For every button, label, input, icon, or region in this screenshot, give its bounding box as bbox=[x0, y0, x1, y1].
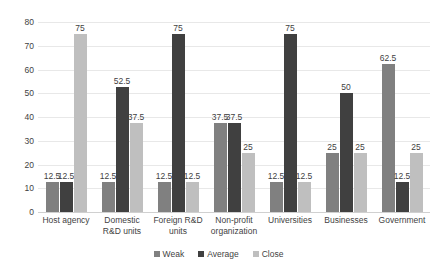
bar-close[interactable]: 25 bbox=[410, 153, 423, 212]
bar-group: 255025 bbox=[318, 22, 374, 212]
bar-value-label: 12.5 bbox=[296, 171, 313, 182]
bar-slot: 25 bbox=[354, 22, 367, 212]
bar-slot: 37.5 bbox=[228, 22, 241, 212]
bar-slot: 50 bbox=[340, 22, 353, 212]
bar-value-label: 50 bbox=[341, 82, 350, 93]
bar-group: 62.512.525 bbox=[374, 22, 430, 212]
bar-close[interactable]: 25 bbox=[354, 153, 367, 212]
bar-value-label: 25 bbox=[411, 142, 420, 153]
bar-weak[interactable]: 25 bbox=[326, 153, 339, 212]
y-tick-label-70: 70 bbox=[4, 41, 34, 51]
bar-group: 12.512.575 bbox=[38, 22, 94, 212]
bar-slot: 12.5 bbox=[158, 22, 171, 212]
bar-slot: 37.5 bbox=[214, 22, 227, 212]
bar-chart: 01020304050607080 12.512.57512.552.537.5… bbox=[0, 0, 437, 269]
x-tick-label: Universities bbox=[262, 215, 318, 237]
bar-groups: 12.512.57512.552.537.512.57512.537.537.5… bbox=[38, 22, 430, 212]
bar-average[interactable]: 37.5 bbox=[228, 123, 241, 212]
bar-average[interactable]: 52.5 bbox=[116, 87, 129, 212]
x-tick-label: Domestic R&D units bbox=[94, 215, 150, 237]
legend-label: Weak bbox=[163, 249, 185, 259]
y-axis: 01020304050607080 bbox=[0, 22, 34, 212]
legend-label: Average bbox=[207, 249, 239, 259]
legend-label: Close bbox=[262, 249, 284, 259]
bar-value-label: 12.5 bbox=[156, 171, 173, 182]
y-tick-label-30: 30 bbox=[4, 136, 34, 146]
bar-value-label: 52.5 bbox=[114, 76, 131, 87]
y-tick-label-0: 0 bbox=[4, 207, 34, 217]
bar-average[interactable]: 75 bbox=[172, 34, 185, 212]
chart-legend: WeakAverageClose bbox=[0, 249, 437, 259]
bar-value-label: 37.5 bbox=[128, 112, 145, 123]
bar-average[interactable]: 75 bbox=[284, 34, 297, 212]
y-tick-label-60: 60 bbox=[4, 65, 34, 75]
legend-swatch-icon bbox=[154, 251, 160, 257]
legend-item-close[interactable]: Close bbox=[253, 249, 284, 259]
bar-group: 37.537.525 bbox=[206, 22, 262, 212]
x-tick-label: Non-profit organization bbox=[206, 215, 262, 237]
gridline-0 bbox=[38, 212, 430, 213]
bar-close[interactable]: 37.5 bbox=[130, 123, 143, 212]
bar-slot: 25 bbox=[326, 22, 339, 212]
bar-close[interactable]: 12.5 bbox=[298, 182, 311, 212]
bar-slot: 12.5 bbox=[298, 22, 311, 212]
y-tick-label-20: 20 bbox=[4, 160, 34, 170]
bar-value-label: 25 bbox=[243, 142, 252, 153]
bar-slot: 75 bbox=[74, 22, 87, 212]
bar-close[interactable]: 25 bbox=[242, 153, 255, 212]
y-tick-label-10: 10 bbox=[4, 183, 34, 193]
y-tick-label-50: 50 bbox=[4, 88, 34, 98]
y-tick-label-40: 40 bbox=[4, 112, 34, 122]
bar-slot: 12.5 bbox=[46, 22, 59, 212]
bar-slot: 37.5 bbox=[130, 22, 143, 212]
bar-value-label: 75 bbox=[75, 23, 84, 34]
bar-close[interactable]: 75 bbox=[74, 34, 87, 212]
bar-value-label: 12.5 bbox=[100, 171, 117, 182]
legend-item-weak[interactable]: Weak bbox=[154, 249, 185, 259]
bar-weak[interactable]: 12.5 bbox=[270, 182, 283, 212]
x-tick-label: Businesses bbox=[318, 215, 374, 237]
bar-average[interactable]: 12.5 bbox=[60, 182, 73, 212]
x-tick-label: Government bbox=[374, 215, 430, 237]
bar-group: 12.552.537.5 bbox=[94, 22, 150, 212]
x-axis-category-labels: Host agencyDomestic R&D unitsForeign R&D… bbox=[38, 215, 430, 237]
bar-average[interactable]: 50 bbox=[340, 93, 353, 212]
legend-swatch-icon bbox=[253, 251, 259, 257]
bar-weak[interactable]: 12.5 bbox=[158, 182, 171, 212]
bar-value-label: 12.5 bbox=[184, 171, 201, 182]
bar-slot: 25 bbox=[410, 22, 423, 212]
bar-value-label: 12.5 bbox=[58, 171, 75, 182]
bar-value-label: 12.5 bbox=[394, 171, 411, 182]
bar-value-label: 75 bbox=[285, 23, 294, 34]
bar-average[interactable]: 12.5 bbox=[396, 182, 409, 212]
bar-weak[interactable]: 12.5 bbox=[46, 182, 59, 212]
bar-weak[interactable]: 37.5 bbox=[214, 123, 227, 212]
bar-value-label: 25 bbox=[355, 142, 364, 153]
x-tick-label: Foreign R&D units bbox=[150, 215, 206, 237]
bar-value-label: 25 bbox=[327, 142, 336, 153]
bar-slot: 12.5 bbox=[102, 22, 115, 212]
bar-value-label: 62.5 bbox=[380, 53, 397, 64]
bar-slot: 12.5 bbox=[186, 22, 199, 212]
y-tick-label-80: 80 bbox=[4, 17, 34, 27]
bar-value-label: 12.5 bbox=[268, 171, 285, 182]
bar-slot: 12.5 bbox=[60, 22, 73, 212]
bar-slot: 75 bbox=[284, 22, 297, 212]
bar-slot: 12.5 bbox=[396, 22, 409, 212]
x-tick-label: Host agency bbox=[38, 215, 94, 237]
legend-swatch-icon bbox=[198, 251, 204, 257]
bar-slot: 62.5 bbox=[382, 22, 395, 212]
bar-weak[interactable]: 12.5 bbox=[102, 182, 115, 212]
bar-slot: 75 bbox=[172, 22, 185, 212]
bar-group: 12.57512.5 bbox=[262, 22, 318, 212]
bar-weak[interactable]: 62.5 bbox=[382, 64, 395, 212]
bar-slot: 12.5 bbox=[270, 22, 283, 212]
bar-value-label: 75 bbox=[173, 23, 182, 34]
bar-value-label: 37.5 bbox=[226, 112, 243, 123]
bar-slot: 25 bbox=[242, 22, 255, 212]
bar-slot: 52.5 bbox=[116, 22, 129, 212]
bar-close[interactable]: 12.5 bbox=[186, 182, 199, 212]
plot-area: 12.512.57512.552.537.512.57512.537.537.5… bbox=[38, 22, 430, 212]
legend-item-average[interactable]: Average bbox=[198, 249, 239, 259]
bar-group: 12.57512.5 bbox=[150, 22, 206, 212]
